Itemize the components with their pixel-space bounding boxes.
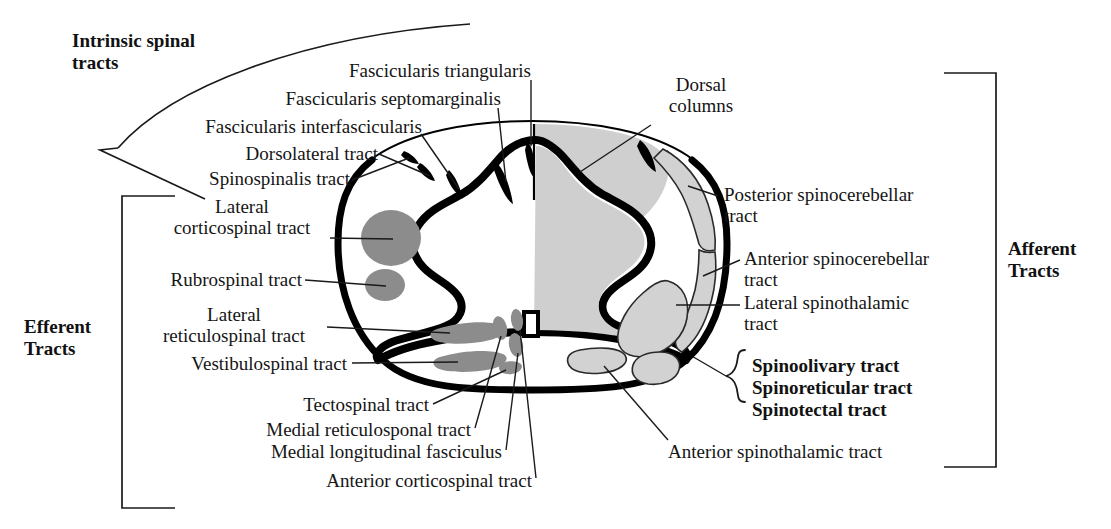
label-anterior-spinothalamic-tract: Anterior spinothalamic tract <box>668 441 968 462</box>
central-canal <box>524 312 538 336</box>
label-medial-longitudinal-fasciculus: Medial longitudinal fasciculus <box>168 441 502 462</box>
label-anterior-corticospinal-tract: Anterior corticospinal tract <box>232 470 532 491</box>
figure-canvas: Intrinsic spinal tracts Efferent Tracts … <box>0 0 1111 529</box>
anterior-spinothalamic-shape <box>568 348 627 374</box>
label-tectospinal-tract: Tectospinal tract <box>213 394 429 415</box>
label-lateral-spinothalamic-tract: Lateral spinothalamic tract <box>744 292 944 334</box>
group-label-intrinsic-spinal-tracts: Intrinsic spinal tracts <box>72 30 252 74</box>
label-spinoreticular-tract: Spinoreticular tract <box>752 377 912 399</box>
leader-vestibulospinal <box>352 362 458 363</box>
group-label-afferent-tracts: Afferent Tracts <box>1008 238 1108 282</box>
label-fascicularis-interfascicularis: Fascicularis interfascicularis <box>110 116 422 137</box>
label-lateral-reticulospinal-tract: Lateral reticulospinal tract <box>142 304 326 346</box>
group-label-efferent-tracts: Efferent Tracts <box>24 316 124 360</box>
label-fascicularis-triangularis: Fascicularis triangularis <box>231 60 531 81</box>
label-anterior-spinocerebellar-tract: Anterior spinocerebellar tract <box>744 248 958 290</box>
label-spinotectal-tract: Spinotectal tract <box>752 399 887 421</box>
label-medial-reticulosponal-tract: Medial reticulosponal tract <box>173 419 471 440</box>
label-fascicularis-septomarginalis: Fascicularis septomarginalis <box>191 88 501 109</box>
label-rubrospinal-tract: Rubrospinal tract <box>130 269 302 290</box>
spino-olivary-reticular-tectal-shape <box>632 352 679 384</box>
label-spinoolivary-tract: Spinoolivary tract <box>752 355 899 377</box>
label-lateral-corticospinal-tract: Lateral corticospinal tract <box>150 196 334 238</box>
label-vestibulospinal-tract: Vestibulospinal tract <box>135 353 347 374</box>
label-dorsal-columns: Dorsal columns <box>636 74 766 116</box>
spino-group-brace-leader <box>690 355 726 376</box>
spino-group-brace <box>726 350 745 402</box>
leader-lateral-corticospinal <box>330 238 393 239</box>
label-spinospinalis-tract: Spinospinalis tract <box>148 168 350 189</box>
label-dorsolateral-tract: Dorsolateral tract <box>178 143 378 164</box>
label-posterior-spinocerebellar-tract: Posterior spinocerebellar tract <box>724 184 950 226</box>
